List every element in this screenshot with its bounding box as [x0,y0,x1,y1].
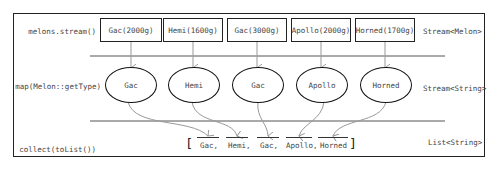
mapped-element-ellipse: Gac [232,67,284,103]
source-element-box: Gac(3000g) [227,18,287,42]
list-item: Horned [320,141,347,150]
mapped-element-ellipse: Hemi [168,67,220,103]
list-slot-line [286,137,312,138]
source-element-box: Hemi(1600g) [163,18,223,42]
list-slot-line [197,137,219,138]
list-slot-line [257,137,279,138]
source-element-box: Gac(2000g) [100,18,162,42]
stage-label-stream: melons.stream() [28,27,96,36]
list-item: Gac, [260,141,278,150]
list-close-bracket: ] [350,136,355,151]
list-item: Hemi, [228,141,251,150]
type-label-stream-melon: Stream<Melon> [423,27,482,36]
stage-label-map: map(Melon::getType) [15,82,101,91]
stage-label-collect: collect(toList()) [19,145,96,154]
list-slot-line [226,137,248,138]
type-label-stream-string: Stream<String> [423,84,486,93]
source-element-box: Apollo(2000g) [291,18,351,42]
mapped-element-ellipse: Apollo [296,67,348,103]
source-element-box: Horned(1700g) [355,18,415,42]
mapped-element-ellipse: Gac [105,67,157,103]
stream-map-collect-diagram: melons.stream() map(Melon::getType) coll… [0,0,499,171]
mapped-element-ellipse: Horned [360,67,412,103]
list-item: Apollo, [286,141,318,150]
type-label-list-string: List<String> [428,138,482,147]
list-open-bracket: [ [187,136,192,151]
list-item: Gac, [200,141,218,150]
list-slot-line [318,137,348,138]
